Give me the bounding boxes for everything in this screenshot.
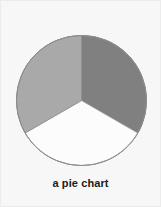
pie-chart-figure: a pie chart xyxy=(0,0,161,207)
chart-caption: a pie chart xyxy=(1,177,160,190)
pie-chart-plot-area xyxy=(16,35,147,166)
pie-chart-svg xyxy=(16,35,147,166)
